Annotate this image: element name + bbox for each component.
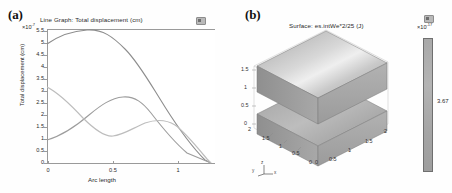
y-tick-0: 0 — [24, 159, 44, 165]
y-tick-4-5: 4.5 — [24, 51, 44, 57]
y-tickmark — [44, 91, 47, 92]
y-tickmark — [44, 139, 47, 140]
y-tick-4: 4 — [24, 63, 44, 69]
y-tick-1: 1 — [279, 143, 282, 149]
y-tickmark — [44, 55, 47, 56]
line-plot-curves — [47, 29, 215, 164]
colorbar-exponent-power: -17 — [427, 22, 433, 27]
y-tickmark — [44, 151, 47, 152]
triad-y-label: y — [252, 168, 254, 173]
curve-mode-1 — [47, 30, 211, 163]
x-tick-0: 0 — [38, 167, 58, 173]
triad-x-label: x — [274, 170, 276, 175]
panel-a-line-graph: (a) Line Graph: Total displacement (cm) … — [0, 0, 226, 193]
z-tick-1-5: 1.5 — [241, 66, 249, 72]
y-tick-1-5: 1.5 — [262, 135, 270, 141]
y-tick-2-5: 2.5 — [24, 99, 44, 105]
y-axis-label: Total displacement (cm) — [19, 27, 25, 123]
y-tick-2: 2 — [24, 111, 44, 117]
y-tick-0: 0 — [309, 159, 312, 165]
y-tick-5-5: 5.5 — [24, 27, 44, 33]
x-tickmark — [178, 161, 179, 164]
figure-root: (a) Line Graph: Total displacement (cm) … — [0, 0, 452, 193]
x-tick-2: 2 — [384, 128, 387, 134]
plot-options-button[interactable] — [196, 17, 206, 25]
x-tick-0: 0 — [315, 159, 318, 165]
x-tickmark — [48, 161, 49, 164]
axis-orientation-triad: y x z — [250, 162, 280, 178]
y-tick-0-5: 0.5 — [292, 150, 300, 156]
x-axis-label: Arc length — [88, 176, 116, 183]
y-tickmark — [44, 79, 47, 80]
panel-a-label: (a) — [8, 7, 23, 23]
y-tickmark — [44, 43, 47, 44]
x-tick-1: 1 — [348, 147, 351, 153]
colorbar-exponent-base: ×10 — [417, 24, 427, 30]
y-tick-5: 5 — [24, 39, 44, 45]
panel-b-surface-plot: (b) Surface: es.intWe*2/25 (J) — [226, 0, 452, 193]
y-tick-1: 1 — [24, 135, 44, 141]
z-tick-1: 1 — [244, 84, 247, 90]
colorbar-value-label: 3.67 — [437, 98, 449, 104]
triad-z-label: z — [261, 160, 263, 165]
x-tick-1-5: 1.5 — [365, 138, 373, 144]
x-tickmark — [113, 161, 114, 164]
y-tick-3: 3 — [24, 87, 44, 93]
curve-mode-3 — [47, 87, 211, 163]
line-graph-title: Line Graph: Total displacement (cm) — [40, 16, 143, 23]
y-tick-3-5: 3.5 — [24, 75, 44, 81]
y-tick-1-5: 1.5 — [24, 123, 44, 129]
x-tick-1: 1 — [168, 167, 188, 173]
colorbar[interactable] — [423, 38, 433, 172]
z-tick-0: 0 — [244, 120, 247, 126]
x-tick-0-5: 0.5 — [329, 156, 337, 162]
y-tickmark — [44, 163, 47, 164]
y-tickmark — [44, 67, 47, 68]
y-tickmark — [44, 115, 47, 116]
y-tick-0-5: 0.5 — [24, 147, 44, 153]
y-tick-2: 2 — [248, 126, 251, 132]
colorbar-exponent: ×10-17 — [417, 24, 432, 30]
z-tick-0-5: 0.5 — [241, 102, 249, 108]
x-tick-0-5: 0.5 — [103, 167, 123, 173]
y-tickmark — [44, 127, 47, 128]
y-tickmark — [44, 31, 47, 32]
y-tickmark — [44, 103, 47, 104]
